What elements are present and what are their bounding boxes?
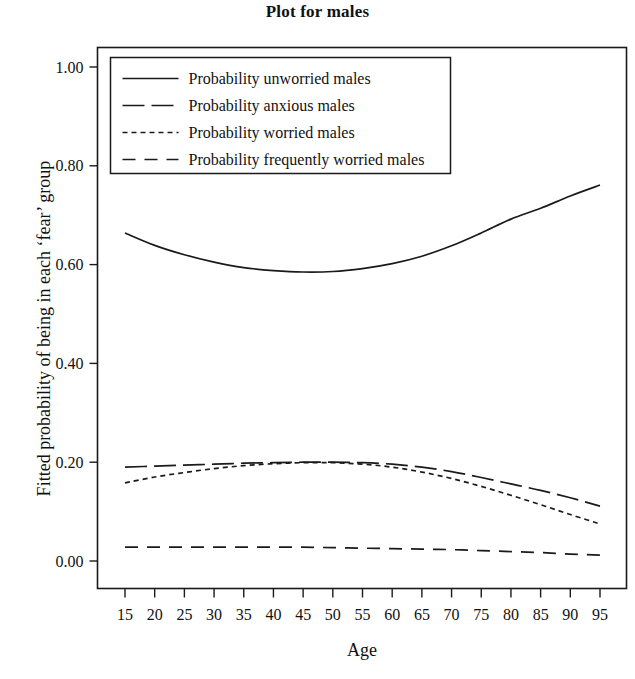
x-axis-label: Age [97, 640, 627, 661]
chart-legend: Probability unworried malesProbability a… [111, 58, 451, 174]
x-tick-label: 90 [562, 606, 578, 623]
curve-series-1 [125, 462, 600, 506]
x-tick-label: 20 [147, 606, 163, 623]
chart-figure: Plot for males 0.000.200.400.600.801.00 … [0, 0, 635, 679]
legend-label-0: Probability unworried males [189, 70, 371, 88]
data-curves [125, 185, 600, 555]
x-tick-label: 40 [265, 606, 281, 623]
x-axis-ticks: 1520253035404550556065707580859095 [117, 589, 608, 623]
y-tick-label: 0.60 [56, 256, 84, 273]
x-tick-label: 60 [384, 606, 400, 623]
x-tick-label: 85 [533, 606, 549, 623]
x-tick-label: 45 [295, 606, 311, 623]
chart-title: Plot for males [0, 2, 635, 22]
y-tick-label: 1.00 [56, 59, 84, 76]
curve-series-3 [125, 547, 600, 555]
x-tick-label: 95 [592, 606, 608, 623]
legend-label-1: Probability anxious males [189, 97, 355, 115]
curve-series-0 [125, 185, 600, 272]
legend-label-3: Probability frequently worried males [189, 151, 425, 169]
x-tick-label: 70 [444, 606, 460, 623]
y-tick-label: 0.80 [56, 157, 84, 174]
y-axis-ticks: 0.000.200.400.600.801.00 [56, 59, 98, 570]
x-tick-label: 15 [117, 606, 133, 623]
x-tick-label: 25 [176, 606, 192, 623]
legend-label-2: Probability worried males [189, 124, 355, 142]
x-tick-label: 55 [355, 606, 371, 623]
x-tick-label: 50 [325, 606, 341, 623]
y-axis-label: Fitted probability of being in each ‘fea… [34, 49, 55, 609]
x-tick-label: 80 [503, 606, 519, 623]
x-tick-label: 65 [414, 606, 430, 623]
y-tick-label: 0.00 [56, 553, 84, 570]
curve-series-2 [125, 463, 600, 524]
y-tick-label: 0.40 [56, 355, 84, 372]
plot-area: 0.000.200.400.600.801.00 152025303540455… [0, 0, 635, 679]
x-tick-label: 35 [236, 606, 252, 623]
y-tick-label: 0.20 [56, 454, 84, 471]
x-tick-label: 30 [206, 606, 222, 623]
x-tick-label: 75 [473, 606, 489, 623]
